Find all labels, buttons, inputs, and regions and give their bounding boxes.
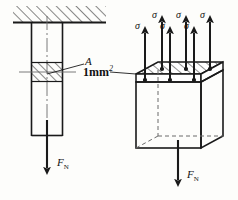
sigma-label-back-1: σ xyxy=(152,10,157,20)
sigma-label-front-3: σ xyxy=(184,21,189,31)
unit-area-exponent: 2 xyxy=(109,64,113,73)
figure-canvas: A 1mm2 FN FN σ σ σ σ σ σ xyxy=(0,0,238,200)
ceiling-support xyxy=(13,6,106,23)
force-right-symbol: F xyxy=(187,168,194,180)
force-left-symbol: F xyxy=(57,156,64,168)
cube-hidden-bottom-left-edge xyxy=(136,136,158,148)
cube-right-face xyxy=(201,70,223,148)
cube-front-face xyxy=(136,82,201,148)
ceiling-hatch xyxy=(13,6,106,22)
force-label-right: FN xyxy=(187,169,199,183)
sigma-label-front-1: σ xyxy=(135,21,140,31)
left-bar-assembly xyxy=(13,6,106,168)
mechanics-diagram xyxy=(0,0,238,200)
force-right-subscript: N xyxy=(194,175,199,183)
unit-area-label: 1mm2 xyxy=(83,65,113,78)
sigma-label-front-2: σ xyxy=(160,21,165,31)
force-label-left: FN xyxy=(57,157,69,171)
unit-area-leader-line xyxy=(110,72,136,74)
unit-area-value: 1mm xyxy=(83,65,109,79)
stress-cube-assembly xyxy=(110,22,223,180)
sigma-label-back-2: σ xyxy=(176,10,181,20)
force-left-subscript: N xyxy=(64,163,69,171)
sigma-label-back-3: σ xyxy=(200,10,205,20)
